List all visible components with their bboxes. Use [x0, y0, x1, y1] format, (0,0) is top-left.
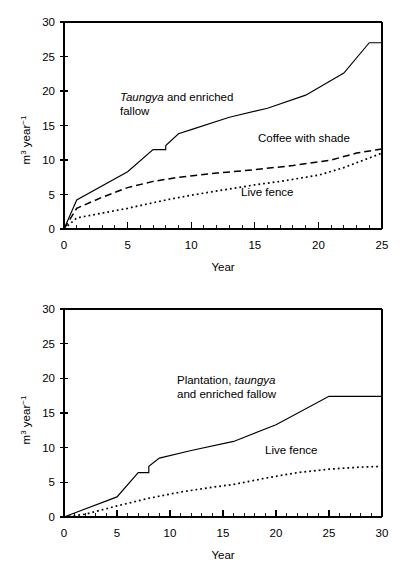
top-chart-axes	[64, 22, 382, 229]
y-tick-label: 20	[42, 85, 55, 97]
y-tick-label: 15	[42, 407, 55, 419]
bottom-x-tick-labels: 051015202530	[61, 527, 389, 539]
plantation-label-line2: and enriched fallow	[177, 388, 277, 400]
bottom-y-axis-title: m3 year−1	[19, 395, 32, 444]
y-tick-label: 20	[42, 372, 55, 384]
bottom-x-axis-title: Year	[211, 549, 234, 561]
y-tick-label: 5	[49, 476, 55, 488]
figure-page: 051015202530 0510152025 m3 year−1 Year T…	[0, 0, 413, 581]
series-coffee-with-shade	[64, 149, 382, 229]
y-tick-label: 15	[42, 120, 55, 132]
bottom-y-tick-labels: 051015202530	[42, 303, 55, 523]
bottom-chart-figure: 051015202530 051015202530 m3 year−1 Year…	[0, 290, 413, 581]
x-tick-label: 25	[376, 239, 389, 251]
y-tick-label: 30	[42, 303, 55, 315]
x-tick-label: 20	[312, 239, 325, 251]
bottom-chart-axes	[64, 309, 382, 517]
x-tick-label: 10	[185, 239, 198, 251]
y-tick-label: 25	[42, 51, 55, 63]
y-tick-label: 30	[42, 16, 55, 28]
x-tick-label: 25	[323, 527, 336, 539]
y-tick-label: 10	[42, 442, 55, 454]
y-tick-label: 0	[49, 223, 55, 235]
x-tick-label: 30	[376, 527, 389, 539]
bottom-chart-svg: 051015202530 051015202530 m3 year−1 Year…	[0, 290, 413, 581]
x-tick-label: 5	[114, 527, 120, 539]
y-tick-label: 10	[42, 154, 55, 166]
plantation-label: Plantation, taungya	[177, 374, 275, 386]
x-tick-label: 10	[164, 527, 177, 539]
y-tick-label: 5	[49, 189, 55, 201]
x-tick-label: 5	[124, 239, 130, 251]
livefence-label: Live fence	[241, 186, 293, 198]
y-tick-label: 25	[42, 338, 55, 350]
top-chart-figure: 051015202530 0510152025 m3 year−1 Year T…	[0, 0, 413, 290]
top-x-ticks	[64, 222, 382, 229]
top-x-tick-labels: 0510152025	[61, 239, 389, 251]
bottom-livefence-label: Live fence	[265, 444, 317, 456]
bottom-x-ticks	[64, 510, 382, 517]
taungya-label: Taungya and enriched	[120, 91, 233, 103]
top-y-axis-title: m3 year−1	[19, 115, 32, 164]
top-y-tick-labels: 051015202530	[42, 16, 55, 235]
top-chart-svg: 051015202530 0510152025 m3 year−1 Year T…	[0, 0, 413, 290]
x-tick-label: 15	[248, 239, 261, 251]
x-tick-label: 20	[270, 527, 283, 539]
coffee-label: Coffee with shade	[258, 132, 350, 144]
y-tick-label: 0	[49, 511, 55, 523]
x-tick-label: 15	[217, 527, 230, 539]
taungya-label-line2: fallow	[120, 105, 150, 117]
series-plantation-taungya-enriched-fallow	[64, 396, 382, 517]
series-live-fence	[64, 153, 382, 229]
top-x-axis-title: Year	[211, 261, 234, 273]
x-tick-label: 0	[61, 527, 67, 539]
series-live-fence	[64, 466, 382, 517]
x-tick-label: 0	[61, 239, 67, 251]
